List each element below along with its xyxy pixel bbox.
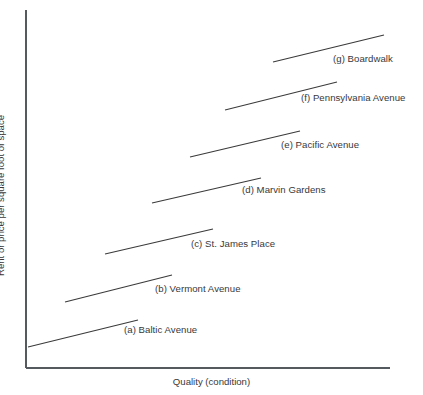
series-label-d: (d) Marvin Gardens [242,185,326,195]
y-axis-label: Rent or price per square foot of space [0,115,6,276]
x-axis-label: Quality (condition) [0,376,423,387]
series-label-a: (a) Baltic Avenue [124,325,197,335]
series-label-g: (g) Boardwalk [333,54,393,64]
series-label-f: (f) Pennsylvania Avenue [301,93,405,103]
series-lines-group [28,35,384,347]
series-line-a [28,320,138,347]
series-label-b: (b) Vermont Avenue [155,284,241,294]
series-label-c: (c) St. James Place [191,239,275,249]
series-label-e: (e) Pacific Avenue [281,140,359,150]
chart-figure: (a) Baltic Avenue(b) Vermont Avenue(c) S… [0,0,423,395]
